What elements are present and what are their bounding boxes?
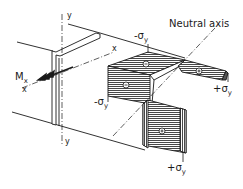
moment-label: Mx [15, 72, 28, 82]
stress-symbol: σ [98, 96, 104, 107]
stress-label-top: -σy [134, 31, 148, 41]
z-section-profile [52, 33, 100, 126]
x-axis [22, 52, 114, 88]
stress-label-right: +σy [213, 84, 232, 94]
stress-symbol: σ [138, 30, 144, 41]
stress-label-bottom: +σy [167, 163, 186, 173]
stress-label-left: -σy [94, 97, 108, 107]
stress-subscript: y [228, 89, 232, 97]
stress-subscript: y [104, 102, 108, 110]
stress-symbol: σ [175, 162, 181, 173]
stress-symbol: σ [221, 83, 227, 94]
moment-symbol: M [15, 71, 24, 82]
x-axis-label-left: x [22, 86, 27, 94]
stress-subscript: y [182, 168, 186, 176]
x-axis-label-right: x [112, 45, 117, 53]
stress-blocks [108, 52, 228, 153]
y-axis-label-top: y [67, 12, 72, 20]
neutral-axis-label: Neutral axis [169, 19, 229, 29]
stress-subscript: y [144, 36, 148, 44]
y-axis-label-bottom: y [65, 138, 70, 146]
moment-subscript: x [24, 77, 28, 85]
